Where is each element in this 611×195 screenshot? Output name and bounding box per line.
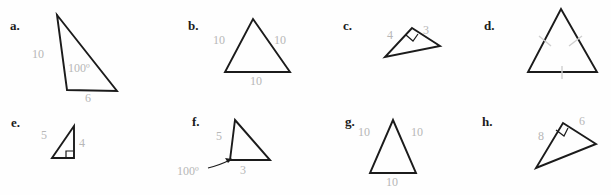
- problem-a: a. 10 100º 6: [0, 0, 155, 100]
- problem-h: h. 8 6: [450, 100, 611, 195]
- problem-b: b. 10 10 10: [160, 0, 310, 100]
- problem-f: f. 5 100º 3: [160, 100, 310, 195]
- angle-leader-f: [208, 158, 232, 168]
- label-b-side-base-10: 10: [250, 75, 262, 87]
- label-f-side-3: 3: [240, 164, 246, 176]
- right-angle-square-e: [66, 151, 73, 158]
- triangle-h: [450, 100, 611, 195]
- problem-g: g. 10 10 10: [310, 100, 450, 195]
- label-f-angle-100: 100º: [177, 165, 199, 177]
- right-angle-square-c: [406, 34, 418, 41]
- right-angle-square-h: [556, 128, 568, 136]
- triangle-f: [160, 100, 310, 195]
- label-g-side-base-10: 10: [386, 176, 398, 188]
- triangle-b: [160, 0, 310, 100]
- problem-e: e. 5 4: [0, 100, 155, 195]
- triangle-d: [450, 0, 611, 100]
- label-h-side-8: 8: [538, 130, 544, 142]
- label-a-angle-100: 100º: [68, 62, 90, 74]
- label-g-side-right-10: 10: [411, 126, 423, 138]
- label-c-side-3: 3: [423, 24, 429, 36]
- triangle-g: [310, 100, 450, 195]
- label-h-side-6: 6: [579, 115, 585, 127]
- label-b-side-left-10: 10: [213, 34, 225, 46]
- worksheet-canvas: a. 10 100º 6 b. 10 10 10 c. 4 3: [0, 0, 611, 195]
- triangle-e: [0, 100, 155, 195]
- problem-d: d.: [450, 0, 611, 100]
- label-e-side-5: 5: [41, 129, 47, 141]
- label-c-side-4: 4: [387, 29, 393, 41]
- triangle-a: [0, 0, 155, 100]
- label-b-side-right-10: 10: [274, 34, 286, 46]
- label-g-side-left-10: 10: [358, 126, 370, 138]
- label-a-side-10: 10: [32, 48, 44, 60]
- problem-c: c. 4 3: [310, 0, 450, 100]
- triangle-c: [310, 0, 450, 100]
- label-f-side-5: 5: [216, 130, 222, 142]
- label-e-side-4: 4: [79, 137, 85, 149]
